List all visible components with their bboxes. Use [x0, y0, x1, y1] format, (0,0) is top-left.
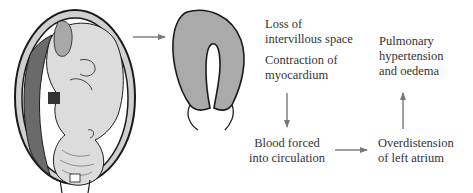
node-blood-line2: into circulation: [237, 151, 337, 166]
uterus-illustration: [15, 10, 135, 193]
node-overdistension: Overdistension of left atrium: [378, 136, 454, 166]
node-pulmonary-line3: and oedema: [379, 64, 444, 79]
node-pulmonary: Pulmonary hypertension and oedema: [379, 34, 444, 79]
node-blood-line1: Blood forced: [237, 136, 337, 151]
node-loss: Loss of intervillous space: [265, 17, 353, 47]
node-overdistension-line2: of left atrium: [378, 151, 454, 166]
node-loss-line1: Loss of: [265, 17, 353, 32]
node-pulmonary-line2: hypertension: [379, 49, 444, 64]
node-overdistension-line1: Overdistension: [378, 136, 454, 151]
node-pulmonary-line1: Pulmonary: [379, 34, 444, 49]
node-contraction-line2: myocardium: [265, 68, 338, 83]
contracted-placenta: [173, 10, 244, 130]
node-contraction: Contraction of myocardium: [265, 53, 338, 83]
diagram-canvas: Loss of intervillous space Contraction o…: [0, 0, 473, 193]
node-loss-line2: intervillous space: [265, 32, 353, 47]
node-blood: Blood forced into circulation: [237, 136, 337, 166]
node-contraction-line1: Contraction of: [265, 53, 338, 68]
